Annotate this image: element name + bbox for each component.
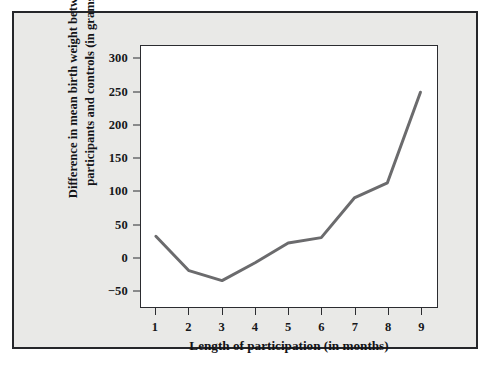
x-axis-tick-mark [321, 308, 322, 315]
x-axis-tick-mark [255, 308, 256, 315]
y-axis-tick-mark [133, 291, 140, 292]
x-axis-tick-mark [222, 308, 223, 315]
x-axis-tick-label: 9 [418, 320, 424, 335]
x-axis-tick-mark [421, 308, 422, 315]
y-axis-tick-label: 250 [109, 84, 128, 99]
x-axis-tick-mark [155, 308, 156, 315]
y-axis-tick-mark [133, 224, 140, 225]
y-axis-tick-labels: −50050100150200250300 [14, 45, 136, 308]
x-axis-tick-label: 4 [252, 320, 258, 335]
x-axis-tick-label: 5 [285, 320, 291, 335]
y-axis-tick-mark [133, 258, 140, 259]
x-axis-tick-mark [188, 308, 189, 315]
data-line-series [156, 92, 421, 280]
y-axis-tick-mark [133, 58, 140, 59]
x-axis-tick-label: 7 [352, 320, 358, 335]
y-axis-tick-label: 50 [115, 217, 128, 232]
y-axis-tick-label: 150 [109, 151, 128, 166]
plot-area [140, 45, 438, 308]
x-axis-tick-label: 2 [185, 320, 191, 335]
x-axis-tick-mark [388, 308, 389, 315]
chart-panel: Difference in mean birth weight between … [12, 11, 478, 349]
y-axis-tick-label: 200 [109, 117, 128, 132]
figure-container: Difference in mean birth weight between … [0, 0, 495, 366]
y-axis-tick-label: 0 [122, 251, 128, 266]
y-axis-tick-mark [133, 158, 140, 159]
y-axis-tick-label: 100 [109, 184, 128, 199]
data-line-svg [141, 46, 437, 307]
x-axis-tick-label: 3 [218, 320, 224, 335]
y-axis-tick-mark [133, 191, 140, 192]
x-axis-tick-mark [288, 308, 289, 315]
y-axis-tick-mark [133, 91, 140, 92]
x-axis-title: Length of participation (in months) [140, 338, 438, 354]
x-axis-tick-label: 1 [152, 320, 158, 335]
x-axis-tick-labels: 123456789 [140, 308, 438, 334]
y-axis-tick-label: −50 [108, 284, 128, 299]
x-axis-tick-mark [355, 308, 356, 315]
y-axis-tick-label: 300 [109, 51, 128, 66]
y-axis-tick-mark [133, 124, 140, 125]
x-axis-tick-label: 8 [385, 320, 391, 335]
x-axis-tick-label: 6 [318, 320, 324, 335]
